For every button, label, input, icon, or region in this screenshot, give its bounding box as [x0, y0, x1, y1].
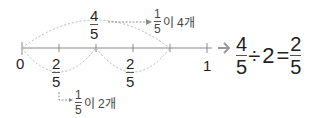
numerator: 2: [126, 56, 134, 71]
numerator: 4: [90, 8, 98, 23]
fraction-2-5-second: 2 5: [126, 56, 134, 89]
denominator: 5: [75, 104, 82, 116]
equation-left-fraction: 4 5: [236, 34, 247, 77]
denominator: 5: [126, 74, 134, 89]
numerator: 2: [52, 56, 60, 71]
numerator: 2: [290, 34, 301, 54]
fraction-2-5-first: 2 5: [52, 56, 60, 89]
label-one: 1: [203, 58, 211, 73]
bottom-annotation-arrow: [59, 92, 70, 100]
divide-sign: ÷: [248, 43, 260, 69]
divisor: 2: [262, 43, 274, 69]
numerator: 4: [236, 34, 247, 54]
equation: 4 5 ÷ 2 = 2 5: [236, 34, 301, 77]
numerator: 1: [75, 89, 82, 101]
annotation-text: 이 4개: [163, 13, 195, 30]
annotation-text: 이 2개: [84, 94, 116, 111]
numerator: 1: [154, 8, 161, 20]
denominator: 5: [52, 74, 60, 89]
denominator: 5: [290, 57, 301, 77]
fraction-4-5-upper: 4 5: [90, 8, 98, 41]
denominator: 5: [236, 57, 247, 77]
denominator: 5: [90, 26, 98, 41]
label-zero: 0: [16, 56, 24, 71]
bottom-annotation: 1 5 이 2개: [75, 89, 116, 116]
equation-right-fraction: 2 5: [290, 34, 301, 77]
denominator: 5: [154, 23, 161, 35]
top-annotation: 1 5 이 4개: [154, 8, 195, 35]
arrow-right-icon: [218, 43, 229, 53]
equals-sign: =: [276, 43, 289, 69]
